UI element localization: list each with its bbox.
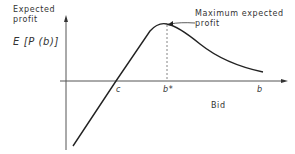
x-axis-label: Bid — [211, 101, 226, 110]
tick-b: b — [257, 85, 263, 94]
annotation-line1: Maximum expected — [195, 9, 284, 18]
x-axis-arrow-icon — [281, 79, 288, 83]
annotation-line2: profit — [195, 19, 220, 28]
tick-c: c — [116, 85, 121, 94]
y-axis-arrow-icon — [64, 15, 68, 22]
chart-canvas — [0, 0, 295, 154]
y-axis-label-line1: Expected — [13, 5, 55, 14]
y-axis-label-line2: profit — [13, 15, 38, 24]
y-axis-formula: E [P (b)] — [13, 37, 59, 46]
annotation-leader — [170, 23, 195, 24]
tick-b-star: b* — [163, 85, 173, 94]
